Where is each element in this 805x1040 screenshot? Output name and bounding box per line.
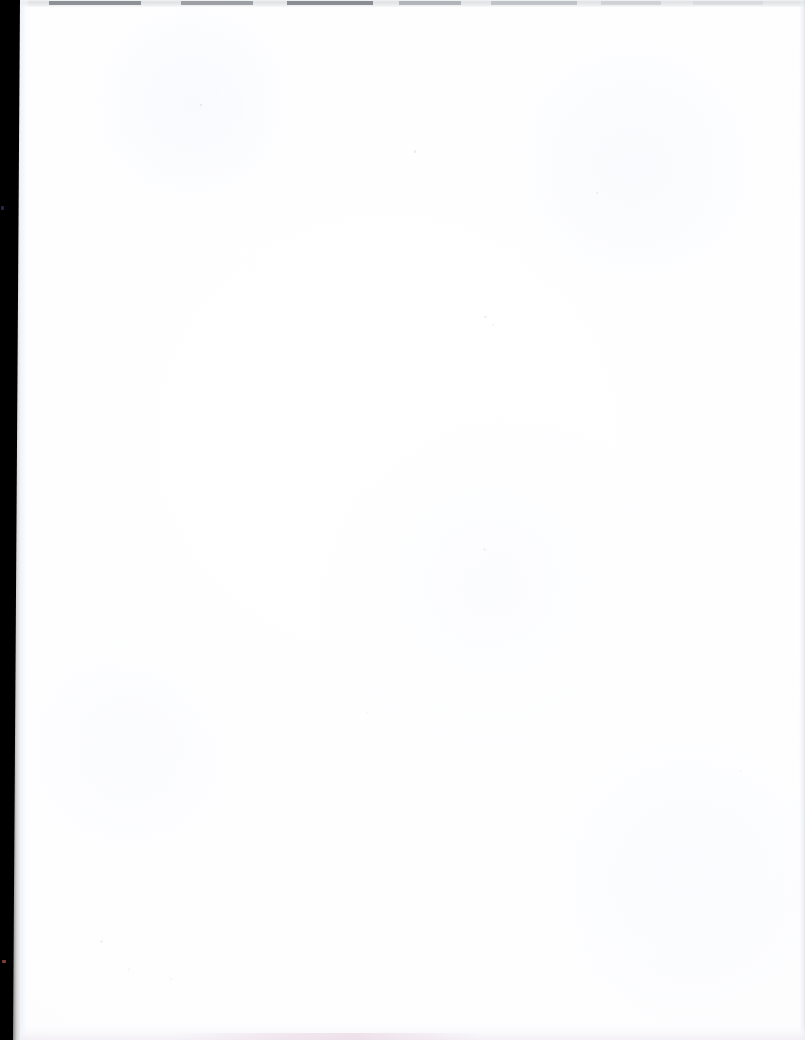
scanned-page — [0, 0, 805, 1040]
blank-paper-field — [0, 0, 805, 1040]
